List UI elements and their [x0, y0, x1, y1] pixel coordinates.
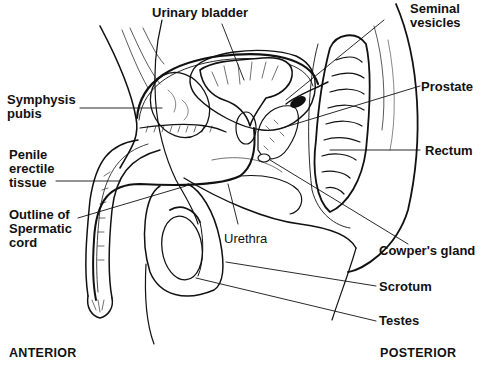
label-symphysis-pubis: Symphysis pubis: [7, 93, 76, 121]
urethra: [93, 128, 254, 300]
label-outline-spermatic-cord: Outline of Spermatic cord: [9, 208, 72, 250]
label-posterior: POSTERIOR: [380, 346, 456, 360]
glans: [88, 296, 113, 318]
label-prostate: Prostate: [421, 80, 473, 94]
label-anterior: ANTERIOR: [9, 346, 77, 360]
label-testes: Testes: [379, 314, 419, 328]
bladder-lumen: [200, 58, 292, 126]
label-scrotum: Scrotum: [379, 280, 432, 294]
label-cowpers-gland: Cowper's gland: [379, 244, 475, 258]
posterior-skin-outline: [332, 248, 356, 320]
perineum: [184, 178, 356, 248]
label-penile-erectile-tissue: Penile erectile tissue: [9, 148, 55, 190]
anatomy-illustration: [0, 0, 488, 365]
leader-lines: [56, 20, 420, 321]
corpus-cavernosum: [140, 125, 226, 132]
label-urethra: Urethra: [224, 232, 267, 246]
prostate-shape: [258, 106, 298, 159]
label-urinary-bladder: Urinary bladder: [152, 6, 248, 20]
sacrum-outline: [348, 4, 418, 272]
label-rectum: Rectum: [425, 144, 473, 158]
cowpers-gland-shape: [258, 154, 270, 162]
label-seminal-vesicles: Seminal vesicles: [410, 2, 461, 30]
